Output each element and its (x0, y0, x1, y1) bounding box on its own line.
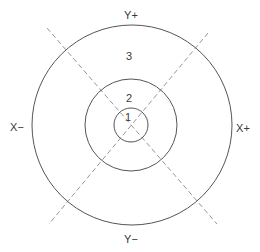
zone-label-3: 3 (126, 50, 132, 62)
zone-label-2: 2 (126, 92, 132, 104)
axis-label-y-minus: Y− (124, 233, 138, 245)
zone-label-1: 1 (125, 111, 131, 123)
axis-label-x-plus: X+ (236, 122, 250, 134)
axis-label-y-plus: Y+ (124, 9, 138, 21)
zone-labels: 3 2 1 (125, 50, 132, 123)
axis-label-x-minus: X− (10, 121, 24, 133)
concentric-zone-diagram: 3 2 1 Y+ Y− X− X+ (0, 0, 260, 252)
